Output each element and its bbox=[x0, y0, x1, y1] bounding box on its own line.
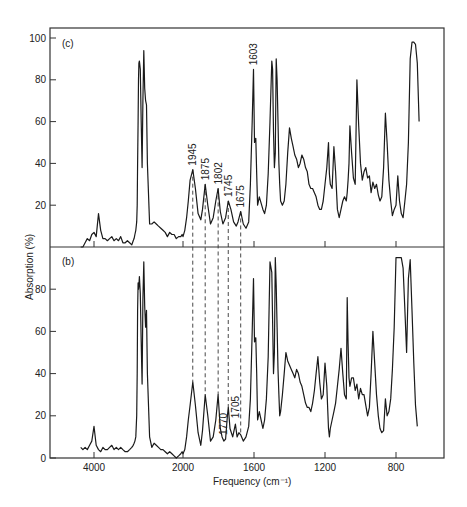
peak-label: 1603 bbox=[248, 43, 259, 66]
peak-label: 1875 bbox=[200, 158, 211, 181]
spectrum-line-b bbox=[81, 258, 418, 458]
y-tick-label: 20 bbox=[35, 200, 47, 211]
peak-label: 1745 bbox=[223, 174, 234, 197]
panel-label-c: (c) bbox=[62, 38, 74, 49]
peak-label: 1945 bbox=[187, 143, 198, 166]
y-tick-label: 40 bbox=[35, 368, 47, 379]
x-tick-label: 2000 bbox=[172, 462, 195, 473]
y-tick-label: 60 bbox=[35, 116, 47, 127]
peak-label: 1705 bbox=[230, 396, 241, 419]
x-tick-label: 4000 bbox=[83, 462, 106, 473]
peak-annotations: 19451875180217451675160317701705 bbox=[187, 43, 259, 435]
peak-label: 1770 bbox=[218, 412, 229, 435]
y-tick-label: 20 bbox=[35, 410, 47, 421]
x-axis-label: Frequency (cm⁻¹) bbox=[213, 476, 291, 487]
peak-label: 1675 bbox=[235, 185, 246, 208]
y-tick-label: 40 bbox=[35, 158, 47, 169]
y-tick-label: 80 bbox=[35, 284, 47, 295]
x-tick-label: 1600 bbox=[243, 462, 266, 473]
x-tick-label: 800 bbox=[388, 462, 405, 473]
x-tick-label: 1200 bbox=[314, 462, 337, 473]
y-axis-panel-c: 20406080100 bbox=[29, 33, 56, 211]
y-tick-label: 80 bbox=[35, 74, 47, 85]
spectrum-line-c bbox=[81, 42, 419, 247]
y-axis-panel-b: 020406080 bbox=[35, 284, 56, 464]
y-tick-label: 100 bbox=[29, 33, 46, 44]
panel-label-b: (b) bbox=[62, 256, 74, 267]
plot-frame bbox=[50, 28, 444, 458]
ir-spectrum-figure: 20406080100 020406080 400020001600120080… bbox=[0, 0, 467, 507]
y-tick-label: 0 bbox=[40, 453, 46, 464]
plot-border bbox=[50, 28, 444, 458]
y-axis-label: Absorption (%) bbox=[24, 234, 35, 300]
dashed-peak-connectors bbox=[193, 170, 241, 435]
spectrum-chart: 20406080100 020406080 400020001600120080… bbox=[0, 0, 467, 507]
x-axis: 4000200016001200800 bbox=[83, 241, 405, 473]
y-tick-label: 60 bbox=[35, 326, 47, 337]
